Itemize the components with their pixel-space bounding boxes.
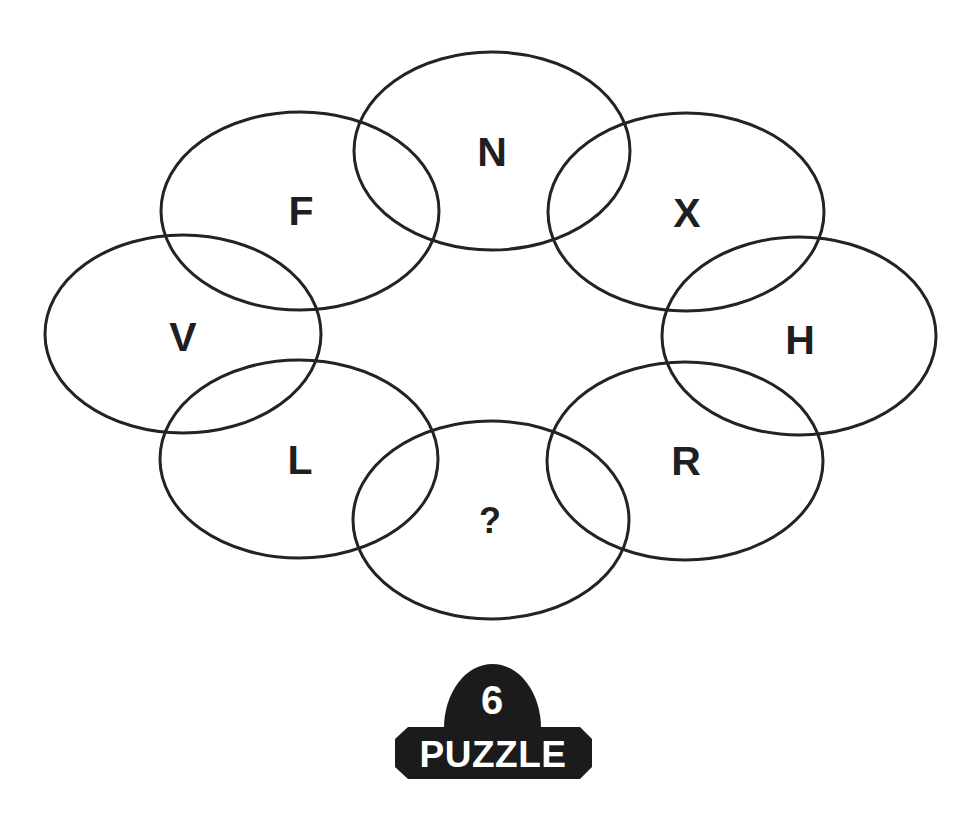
puzzle-canvas: N X H R ? L V F 6 PUZZLE — [0, 0, 971, 814]
letter-f: F — [288, 191, 313, 232]
letter-n: N — [477, 132, 507, 173]
puzzle-number: 6 — [481, 680, 503, 720]
letter-unknown: ? — [479, 503, 501, 539]
letter-r: R — [671, 441, 701, 482]
letter-h: H — [785, 320, 815, 361]
puzzle-label: PUZZLE — [420, 736, 567, 773]
letter-l: L — [287, 440, 312, 481]
letter-v: V — [169, 317, 196, 358]
letter-x: X — [673, 193, 700, 234]
